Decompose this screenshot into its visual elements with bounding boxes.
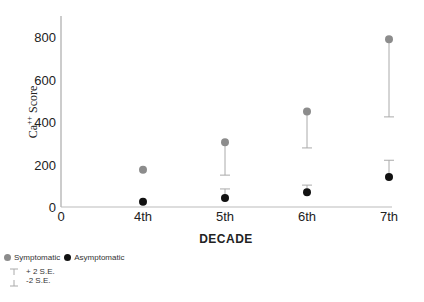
error-bars <box>220 39 394 198</box>
point-asymptomatic <box>139 198 147 206</box>
point-symptomatic <box>221 138 229 146</box>
point-symptomatic <box>139 166 147 174</box>
x-tick-label: 4th <box>134 209 152 224</box>
data-points <box>139 35 393 206</box>
y-tick-labels: 0200400600800 <box>34 30 56 215</box>
legend-minus-se-label: -2 S.E. <box>26 276 55 285</box>
x-tick-labels: 04th5th6th7th <box>57 209 398 224</box>
error-bar-icon <box>4 267 24 289</box>
legend-error: + 2 S.E. -2 S.E. <box>4 267 124 289</box>
legend: Symptomatic Asymptomatic + 2 S.E. -2 S.E… <box>4 252 124 289</box>
point-asymptomatic <box>385 173 393 181</box>
axes <box>61 16 392 207</box>
y-tick-label: 200 <box>34 158 56 173</box>
asymptomatic-marker-icon <box>64 254 71 261</box>
chart: 0200400600800 04th5th6th7th Ca++ Score D… <box>0 0 424 250</box>
point-symptomatic <box>303 107 311 115</box>
y-axis-label: Ca++ Score <box>25 86 40 139</box>
y-tick-label: 0 <box>49 200 56 215</box>
y-tick-label: 800 <box>34 30 56 45</box>
point-asymptomatic <box>303 188 311 196</box>
x-tick-label: 7th <box>380 209 398 224</box>
x-tick-label-origin: 0 <box>57 209 64 224</box>
x-axis-label: DECADE <box>199 232 253 246</box>
point-symptomatic <box>385 35 393 43</box>
x-tick-label: 6th <box>298 209 316 224</box>
point-asymptomatic <box>221 194 229 202</box>
symptomatic-marker-icon <box>4 254 11 261</box>
legend-series: Symptomatic Asymptomatic <box>4 252 124 263</box>
legend-symptomatic-label: Symptomatic <box>14 253 60 262</box>
x-tick-label: 5th <box>216 209 234 224</box>
legend-plus-se-label: + 2 S.E. <box>26 267 55 276</box>
legend-asymptomatic-label: Asymptomatic <box>74 253 124 262</box>
y-tick-label: 600 <box>34 73 56 88</box>
